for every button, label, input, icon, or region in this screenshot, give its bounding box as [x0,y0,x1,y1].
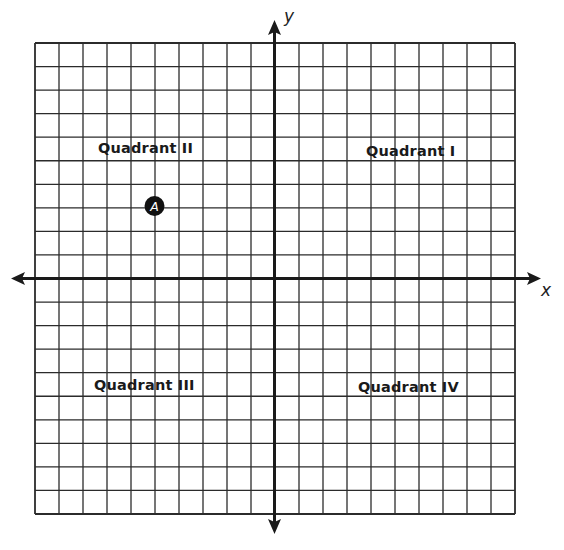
x-axis: x [11,272,552,300]
point-a-label: A [149,199,159,214]
point-a: A [145,196,165,216]
coordinate-plane: x y Quadrant II Quadrant I Quadrant III … [0,0,564,550]
quadrant-ii-label: Quadrant II [98,140,193,156]
y-axis-label: y [283,6,295,26]
quadrant-iv-label: Quadrant IV [358,379,459,395]
quadrant-iii-label: Quadrant III [94,377,195,393]
quadrant-i-label: Quadrant I [366,143,455,159]
y-axis: y [268,6,295,534]
x-axis-label: x [540,280,552,300]
